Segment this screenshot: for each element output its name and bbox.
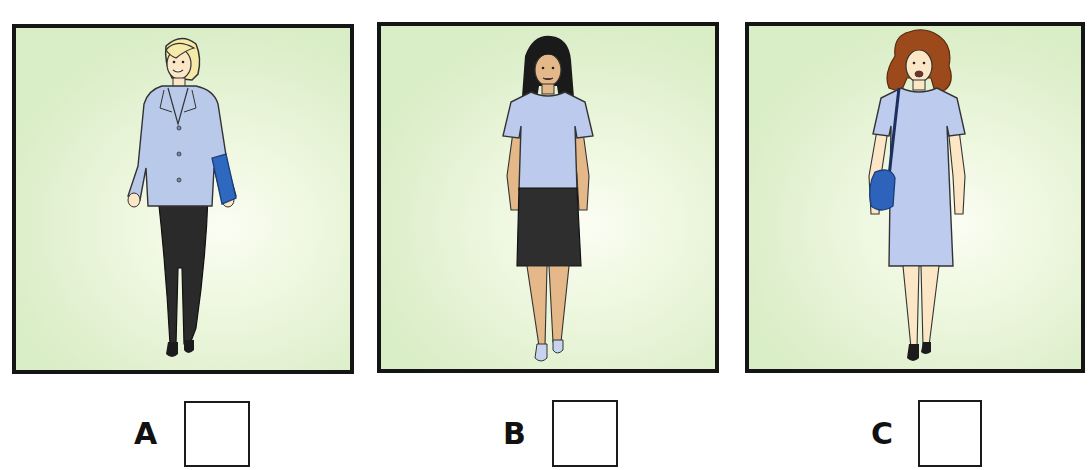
woman-in-dress-with-bag-illustration [749, 26, 1081, 369]
woman-in-blazer-illustration [16, 28, 350, 370]
checkbox-c[interactable] [918, 400, 982, 467]
option-label-c: C [871, 419, 893, 449]
picture-panel-b [377, 22, 719, 373]
checkbox-b[interactable] [552, 400, 618, 467]
option-label-a: A [134, 419, 157, 449]
picture-panel-c [745, 22, 1085, 373]
option-label-b: B [503, 419, 526, 449]
picture-panel-a [12, 24, 354, 374]
woman-in-tshirt-and-skirt-illustration [381, 26, 715, 369]
checkbox-a[interactable] [184, 401, 250, 467]
